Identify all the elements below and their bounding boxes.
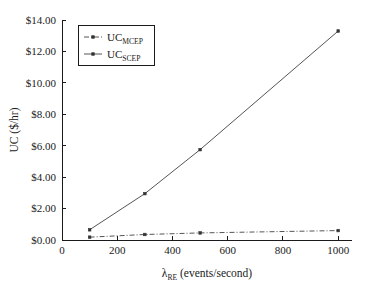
- data-point-marker: [337, 229, 340, 232]
- legend-label-main: UC: [107, 48, 122, 60]
- x-tick-label: 1000: [327, 244, 350, 256]
- data-point-marker: [144, 233, 147, 236]
- legend-label-subscript: SCEP: [122, 54, 140, 63]
- data-point-marker: [144, 192, 147, 195]
- y-tick-label: $6.00: [31, 140, 56, 152]
- x-tick-label: 200: [109, 244, 126, 256]
- legend-label-subscript: MCEP: [122, 37, 143, 46]
- legend-marker: [92, 53, 95, 56]
- x-axis-title: λRE (events/second): [162, 267, 253, 282]
- legend-label-main: UC: [107, 31, 122, 43]
- legend-marker: [92, 36, 95, 39]
- y-tick-label: $0.00: [31, 234, 56, 246]
- series-line-uc-mcep: [90, 231, 339, 238]
- data-point-marker: [199, 148, 202, 151]
- data-point-marker: [88, 236, 91, 239]
- data-point-marker: [337, 30, 340, 33]
- y-tick-label: $2.00: [31, 202, 56, 214]
- data-point-marker: [88, 228, 91, 231]
- y-tick-label: $8.00: [31, 108, 56, 120]
- data-point-marker: [199, 232, 202, 235]
- x-axis-title-rest: (events/second): [177, 267, 252, 280]
- x-tick-label: 600: [219, 244, 236, 256]
- x-tick-label: 400: [164, 244, 181, 256]
- y-tick-label: $4.00: [31, 171, 56, 183]
- chart-figure: $0.00$2.00$4.00$6.00$8.00$10.00$12.00$14…: [0, 0, 371, 286]
- uc-vs-lambda-line-chart: $0.00$2.00$4.00$6.00$8.00$10.00$12.00$14…: [0, 0, 371, 286]
- y-tick-label: $14.00: [26, 14, 57, 26]
- y-axis-title: UC ($/hr): [8, 107, 21, 152]
- y-tick-label: $12.00: [26, 45, 57, 57]
- x-tick-label: 800: [275, 244, 292, 256]
- x-tick-label: 0: [59, 244, 65, 256]
- x-axis-title-subscript: RE: [167, 273, 177, 282]
- y-tick-label: $10.00: [26, 77, 57, 89]
